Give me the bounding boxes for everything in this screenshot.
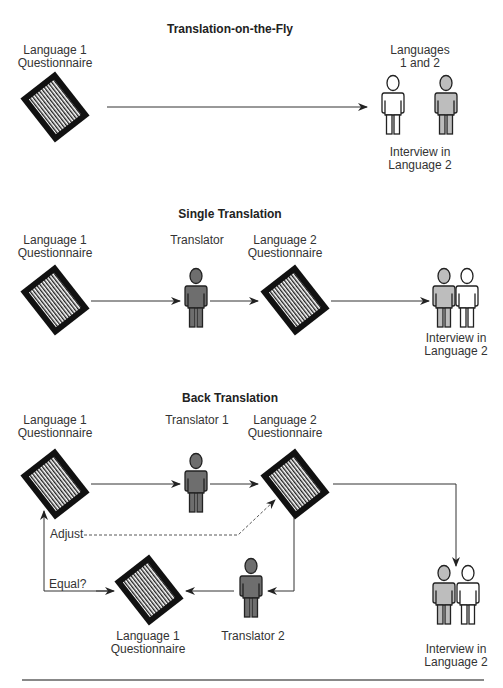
- person-gray-icon: [433, 269, 455, 328]
- section-back-translation: [20, 448, 479, 625]
- translator2-label: Translator 2: [221, 630, 285, 643]
- person-outline-icon: [457, 566, 479, 625]
- label-line: 1 and 2: [390, 57, 449, 70]
- label-line: Questionnaire: [18, 427, 93, 440]
- document-icon: [20, 448, 89, 519]
- interview-label: Interview in Language 2: [424, 643, 487, 669]
- source-label: Language 1 Questionnaire: [18, 234, 93, 260]
- label-line: Questionnaire: [18, 247, 93, 260]
- section-single-translation: [20, 264, 478, 335]
- interview-label: Interview in Language 2: [388, 146, 451, 172]
- document-icon: [20, 264, 89, 335]
- document-icon: [260, 264, 329, 335]
- section-translation-on-the-fly: [20, 71, 457, 142]
- label-line: Questionnaire: [248, 247, 323, 260]
- label-line: Questionnaire: [248, 427, 323, 440]
- arrow: [268, 518, 294, 591]
- label-line: Questionnaire: [18, 57, 93, 70]
- translator1-label: Translator 1: [165, 414, 229, 427]
- section-title: Single Translation: [178, 207, 281, 221]
- respondents-label: Languages 1 and 2: [390, 44, 449, 70]
- section-title: Back Translation: [182, 391, 278, 405]
- back-translation-label: Language 1 Questionnaire: [111, 630, 186, 656]
- interview-label: Interview in Language 2: [424, 332, 487, 358]
- document-icon: [20, 71, 89, 142]
- label-line: Questionnaire: [111, 643, 186, 656]
- source-label: Language 1 Questionnaire: [18, 44, 93, 70]
- person-gray-icon: [433, 566, 455, 625]
- label-line: Language 2: [388, 159, 451, 172]
- translator-person-icon: [185, 269, 207, 328]
- person-outline-icon: [382, 76, 404, 135]
- equal-label: Equal?: [49, 578, 86, 591]
- adjust-label: Adjust: [50, 528, 83, 541]
- label-line: Language 2: [424, 656, 487, 669]
- translator-person-icon: [185, 454, 207, 513]
- label-line: Language 2: [424, 345, 487, 358]
- translator-label: Translator: [170, 234, 224, 247]
- document-icon: [114, 554, 183, 625]
- translator-person-icon: [240, 559, 262, 618]
- document-icon: [260, 448, 329, 519]
- arrow: [333, 484, 456, 566]
- section-title: Translation-on-the-Fly: [167, 22, 293, 36]
- person-outline-icon: [456, 269, 478, 328]
- target-label: Language 2 Questionnaire: [248, 234, 323, 260]
- source-label: Language 1 Questionnaire: [18, 414, 93, 440]
- target-label: Language 2 Questionnaire: [248, 414, 323, 440]
- person-gray-icon: [435, 76, 457, 135]
- adjust-dashed-arrow: [84, 500, 275, 535]
